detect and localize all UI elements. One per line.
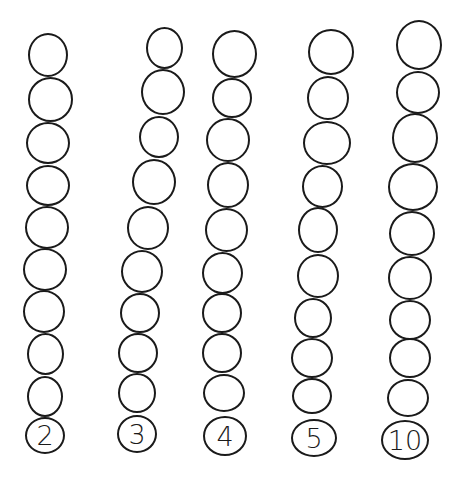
bead-circle (389, 211, 435, 256)
bead-circle (387, 379, 429, 417)
bead-circle (389, 338, 431, 378)
bead-circle (396, 20, 442, 70)
bead-circle (388, 256, 432, 300)
bead-circle (392, 113, 438, 163)
counting-bead-worksheet: 2 3 4 5 10 (0, 0, 466, 483)
number-label-circle: 10 (381, 420, 429, 460)
bead-column-10: 10 (0, 0, 466, 483)
bead-circle (388, 163, 438, 211)
bead-circle (389, 300, 431, 340)
bead-circle (396, 71, 440, 114)
